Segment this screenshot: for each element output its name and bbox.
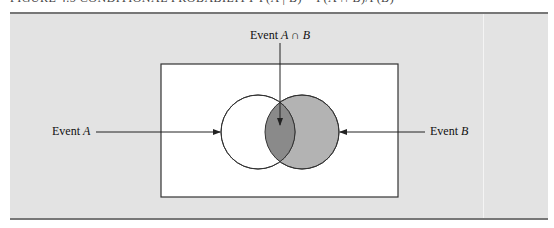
intersection-label: Event A ∩ B — [250, 28, 310, 43]
event-b-label: Event B — [430, 124, 468, 139]
event-a-label: Event A — [52, 124, 90, 139]
